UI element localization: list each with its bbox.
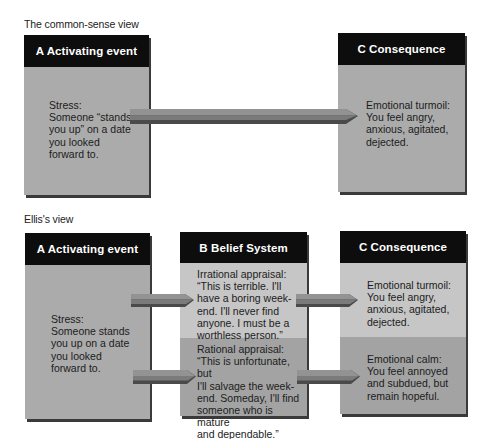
belief-system-box: B Belief System Irrational appraisal: “T… — [180, 232, 307, 416]
ellis-consequence-header: C Consequence — [340, 231, 466, 263]
ellis-activating-event-box: A Activating event Stress: Someone stand… — [25, 233, 150, 419]
ellis-consequence-box: C Consequence Emotional turmoil: You fee… — [340, 231, 466, 414]
arrow-a-to-b-irrational-icon — [131, 294, 194, 307]
arrow-b-to-c-calm-icon — [297, 370, 360, 384]
emotional-calm-text: Emotional calm: You feel annoyed and sub… — [367, 353, 465, 402]
common-activating-event-header: A Activating event — [24, 35, 149, 67]
rational-appraisal-text: Rational appraisal: “This is unfortunate… — [197, 343, 307, 439]
irrational-appraisal-text: Irrational appraisal: “This is terrible.… — [197, 268, 305, 341]
common-consequence-header: C Consequence — [338, 33, 465, 65]
belief-system-header: B Belief System — [180, 232, 307, 264]
arrow-a-to-b-rational-icon — [133, 370, 196, 384]
arrow-a-to-c-icon — [130, 109, 358, 124]
ellis-activating-event-header: A Activating event — [25, 233, 150, 265]
ellis-view-label: Ellis's view — [24, 213, 73, 225]
common-consequence-text: Emotional turmoil: You feel angry, anxio… — [366, 99, 463, 148]
emotional-turmoil-text: Emotional turmoil: You feel angry, anxio… — [367, 279, 465, 328]
ellis-activating-event-text: Stress: Someone stands you up on a date … — [51, 313, 147, 374]
arrow-b-to-c-turmoil-icon — [296, 294, 358, 307]
common-sense-view-label: The common-sense view — [24, 18, 139, 30]
